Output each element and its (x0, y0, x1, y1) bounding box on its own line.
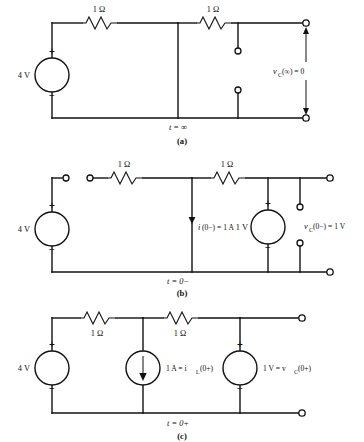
panel-c-resistor-2: 1 Ω (163, 312, 199, 338)
panel-b-capacitor-label: v C (0−) = 1 V (304, 222, 346, 233)
panel-b-current-label-main: i (198, 223, 201, 232)
panel-b-mid-source-plus: + (265, 198, 271, 209)
circuit-panel-a: 1 Ω 1 Ω + − 4 V (0, 0, 364, 148)
panel-b-voltage-source: + − 4 V (18, 200, 69, 255)
panel-a-output-label-rest: (∞) = 0 (282, 67, 305, 76)
panel-b-capacitor-terminals (297, 204, 303, 246)
figure-page: 1 Ω 1 Ω + − 4 V (0, 0, 364, 442)
panel-b-resistor-2: 1 Ω (210, 160, 246, 184)
panel-a-resistor-1: 1 Ω (82, 5, 118, 29)
panel-b-time-label: t = 0− (167, 277, 189, 286)
panel-c-source-minus: − (49, 383, 55, 394)
panel-c-resistor-2-label: 1 Ω (174, 329, 187, 338)
panel-a-source-label: 4 V (18, 71, 30, 80)
panel-b-resistor-1-label: 1 Ω (118, 160, 131, 169)
panel-b-source-minus: − (49, 244, 55, 255)
panel-c-volt-source-plus: + (237, 339, 243, 350)
panel-a-resistor-2: 1 Ω (196, 5, 232, 29)
panel-b-mid-source-minus: − (265, 242, 271, 253)
panel-a-resistor-2-label: 1 Ω (207, 5, 220, 14)
panel-c-source-plus: + (49, 339, 55, 350)
panel-a-resistor-1-label: 1 Ω (93, 5, 106, 14)
panel-a-wiring (52, 23, 306, 118)
panel-b-caption: (b) (177, 288, 188, 298)
panel-c-resistor-1: 1 Ω (80, 312, 116, 338)
panel-c-volt-source-minus: − (237, 383, 243, 394)
panel-c-current-source: 1 A = i L (0+) (126, 351, 214, 385)
panel-b-mid-voltage-source: + − 1 V (236, 198, 285, 253)
panel-b-current-label-rest: (0−) = 1 A (202, 223, 234, 232)
panel-a-voltage-source: + − 4 V (18, 46, 69, 101)
panel-b-mid-source-label: 1 V (236, 223, 248, 232)
panel-b-resistor-1: 1 Ω (107, 160, 143, 184)
panel-c-voltage-source: + − 4 V (18, 339, 69, 394)
panel-c-time-label: t = 0+ (167, 419, 189, 428)
panel-a-open-terminals (235, 48, 241, 93)
panel-a-source-plus: + (49, 46, 55, 57)
panel-a-output-label: v C (∞) = 0 (273, 67, 305, 78)
panel-c-volt-source-label-rest: (0+) (298, 364, 312, 373)
panel-b-source-label: 4 V (18, 225, 30, 234)
panel-b-wiring (52, 178, 330, 272)
panel-a-source-minus: − (49, 90, 55, 101)
panel-c-capacitor-voltage-source: + − 1 V = v C (0+) (223, 339, 312, 394)
panel-c-current-source-label-main: 1 A = i (166, 364, 187, 373)
panel-b-current-arrow: i (0−) = 1 A (189, 217, 235, 232)
panel-b-switch-terminals (63, 175, 93, 181)
panel-a-caption: (a) (177, 136, 187, 146)
panel-a-output-label-main: v (273, 67, 277, 76)
panel-c-caption: (c) (177, 431, 187, 441)
panel-b-capacitor-label-rest: (0−) = 1 V (313, 222, 346, 231)
panel-a-time-label: t = ∞ (169, 123, 187, 132)
panel-c-resistor-1-label: 1 Ω (91, 329, 104, 338)
panel-b-resistor-2-label: 1 Ω (221, 160, 234, 169)
panel-c-source-label: 4 V (18, 364, 30, 373)
panel-b-capacitor-label-main: v (304, 222, 308, 231)
circuit-panel-c: 1 Ω 1 Ω + − 4 V 1 A = i L (0+) (0, 298, 364, 442)
panel-c-volt-source-label-main: 1 V = v (263, 364, 286, 373)
circuit-panel-b: 1 Ω 1 Ω + − 4 V i (0−) = 1 A (0, 148, 364, 298)
panel-b-source-plus: + (49, 200, 55, 211)
panel-c-current-source-label-rest: (0+) (200, 364, 214, 373)
